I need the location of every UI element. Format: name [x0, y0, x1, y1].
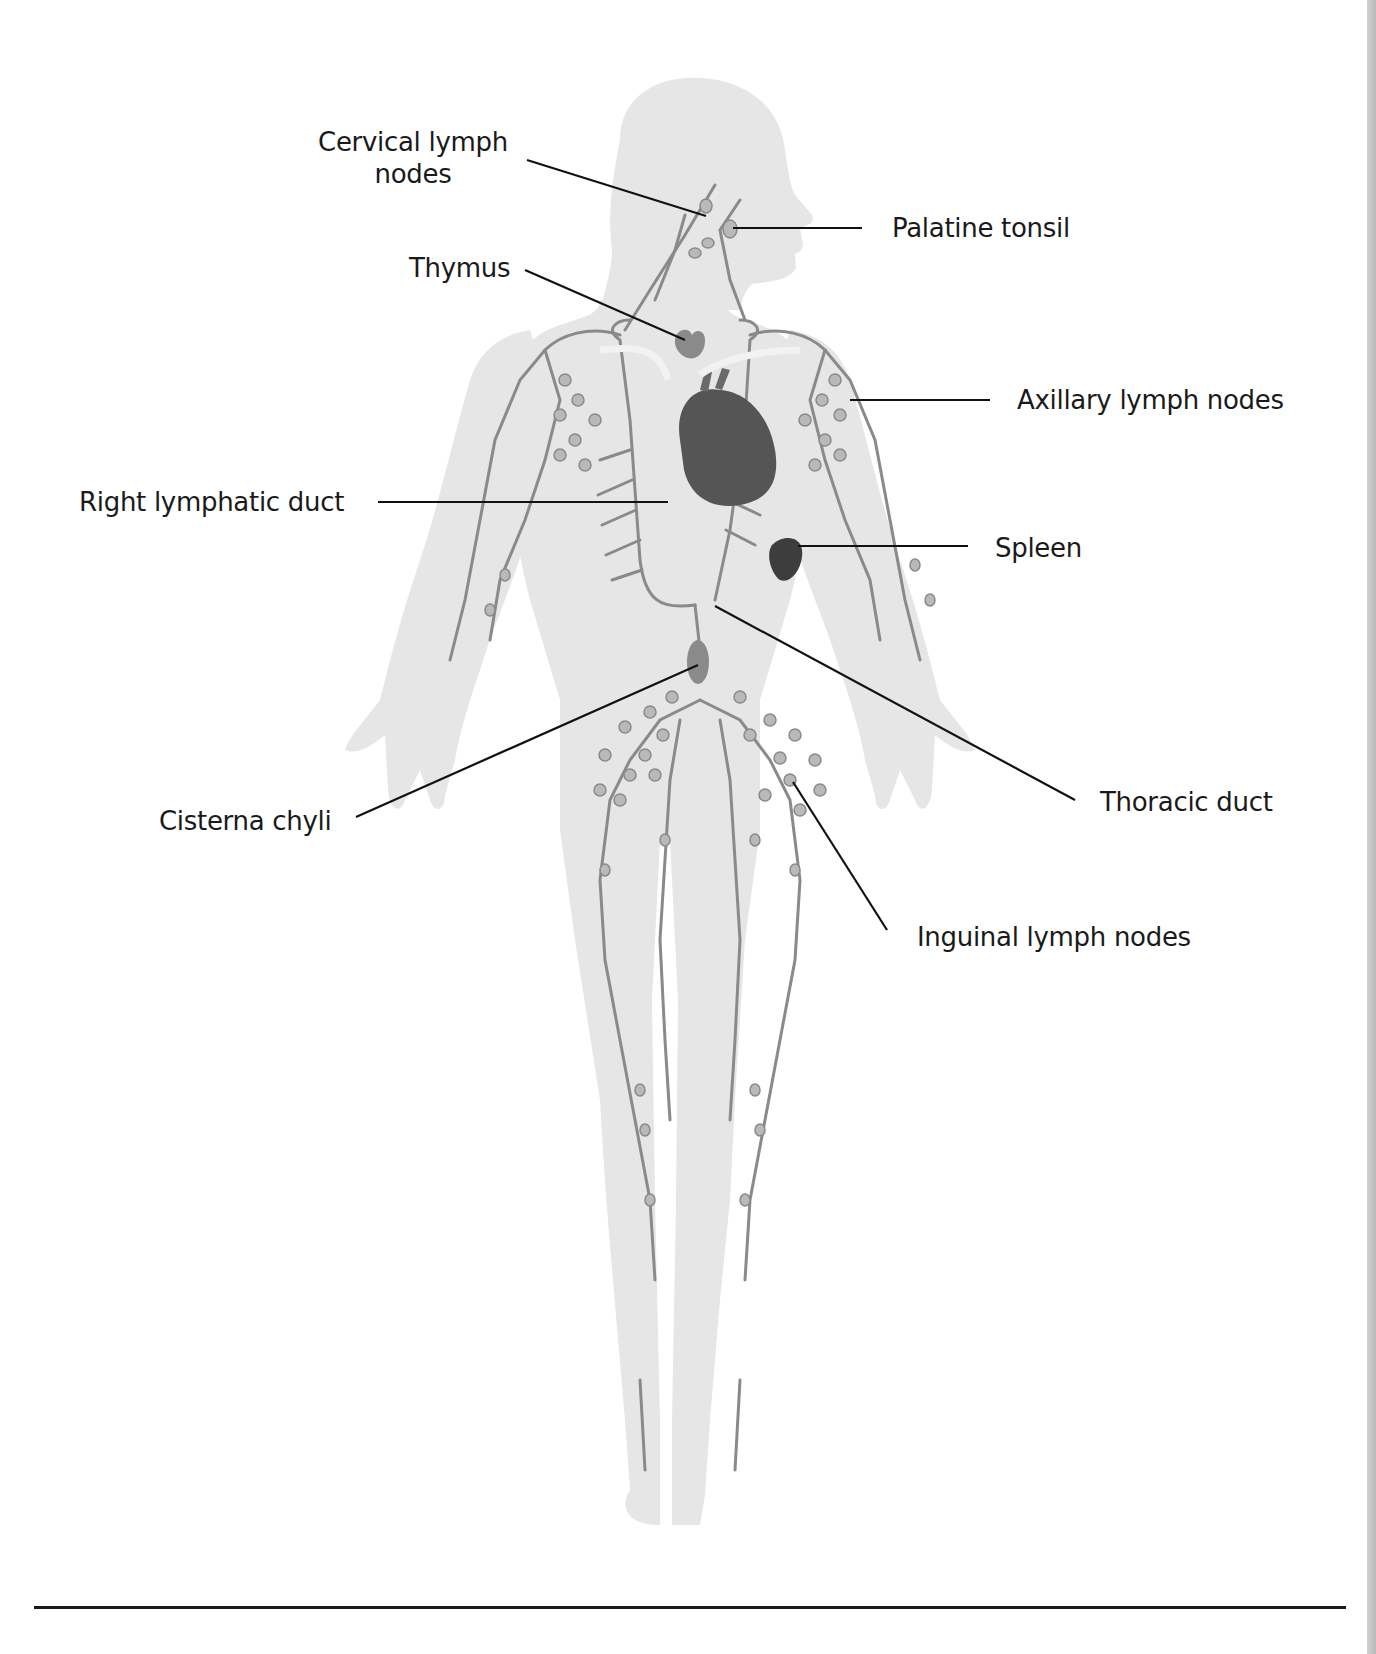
bottom-rule [34, 1606, 1346, 1609]
leader-inguinal [793, 782, 887, 930]
page-edge-strip [1367, 0, 1376, 1654]
label-thoracic-duct: Thoracic duct [1100, 786, 1273, 818]
label-right-lymphatic-duct: Right lymphatic duct [79, 486, 344, 518]
label-cervical-line1: Cervical lymph [303, 126, 523, 158]
cisterna-chyli-organ [687, 640, 709, 684]
label-palatine-tonsil: Palatine tonsil [892, 212, 1070, 244]
label-inguinal-lymph-nodes: Inguinal lymph nodes [917, 921, 1191, 953]
label-cisterna-chyli: Cisterna chyli [159, 805, 331, 837]
label-thymus: Thymus [409, 252, 510, 284]
label-axillary-lymph-nodes: Axillary lymph nodes [1017, 384, 1284, 416]
label-cervical-lymph-nodes: Cervical lymph nodes [303, 126, 523, 190]
label-spleen: Spleen [995, 532, 1082, 564]
label-cervical-line2: nodes [303, 158, 523, 190]
